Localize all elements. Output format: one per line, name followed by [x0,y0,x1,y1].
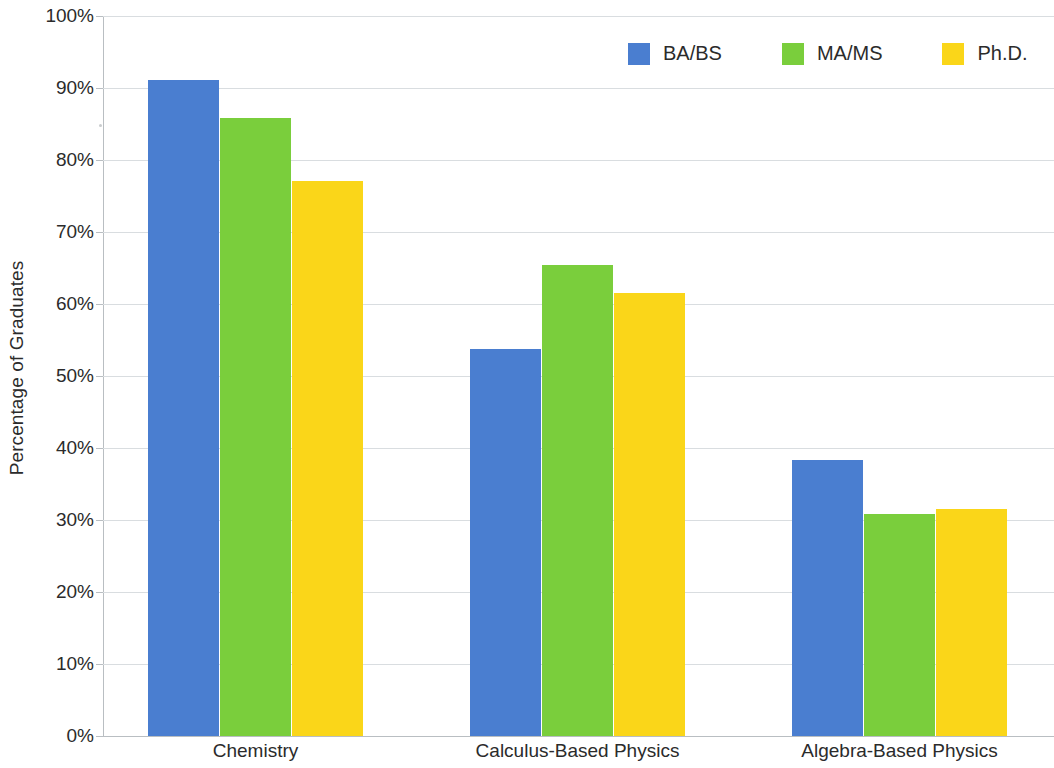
bar [614,293,685,736]
y-axis-tick-label: 0% [67,725,94,747]
y-axis-tick-label: 100% [45,5,94,27]
y-axis-tick-mark [96,592,103,593]
x-axis-category-label: Chemistry [213,740,299,762]
bar [936,509,1007,736]
y-axis-tick-mark [96,664,103,665]
bar [470,349,541,736]
y-axis-tick-label: 60% [56,293,94,315]
y-axis-tick-label: 10% [56,653,94,675]
bar [292,181,363,736]
y-axis-tick-label: 20% [56,581,94,603]
y-axis-tick-mark [96,16,103,17]
y-axis-tick-label: 30% [56,509,94,531]
bar [864,514,935,736]
bar [792,460,863,736]
plot-area [103,16,1054,736]
legend-color-swatch [628,43,650,65]
y-axis-tick-mark [96,520,103,521]
legend-item: BA/BS [628,42,722,65]
y-axis-tick-mark [96,304,103,305]
x-axis-category-labels: ChemistryCalculus-Based PhysicsAlgebra-B… [103,740,1054,768]
bar [148,80,219,736]
legend-item: Ph.D. [942,42,1027,65]
y-axis-tick-mark [96,376,103,377]
y-axis-tick-mark [96,160,103,161]
y-axis-title-text: Percentage of Graduates [6,261,28,476]
legend: BA/BSMA/MSPh.D. [628,42,1028,65]
legend-color-swatch [942,43,964,65]
legend-label: Ph.D. [977,42,1027,65]
y-axis-tick-label: 40% [56,437,94,459]
y-axis-tick-label: 90% [56,77,94,99]
scan-artifact-speck [99,124,102,127]
legend-item: MA/MS [782,42,883,65]
y-axis-tick-mark [96,88,103,89]
bar [542,265,613,736]
gridline [103,736,1054,737]
legend-spacer [722,53,782,54]
x-axis-category-label: Calculus-Based Physics [476,740,680,762]
y-axis-tick-labels: 0%10%20%30%40%50%60%70%80%90%100% [34,0,102,768]
legend-label: MA/MS [817,42,883,65]
y-axis-tick-mark [96,232,103,233]
y-axis-tick-label: 70% [56,221,94,243]
y-axis-tick-label: 80% [56,149,94,171]
bars-layer [103,16,1054,736]
legend-spacer [882,53,942,54]
legend-label: BA/BS [663,42,722,65]
y-axis-tick-mark [96,736,103,737]
y-axis-tick-label: 50% [56,365,94,387]
y-axis-tick-mark [96,448,103,449]
y-axis-title: Percentage of Graduates [0,0,34,736]
legend-color-swatch [782,43,804,65]
x-axis-category-label: Algebra-Based Physics [801,740,997,762]
bar [220,118,291,736]
bar-chart: Percentage of Graduates 0%10%20%30%40%50… [0,0,1054,768]
